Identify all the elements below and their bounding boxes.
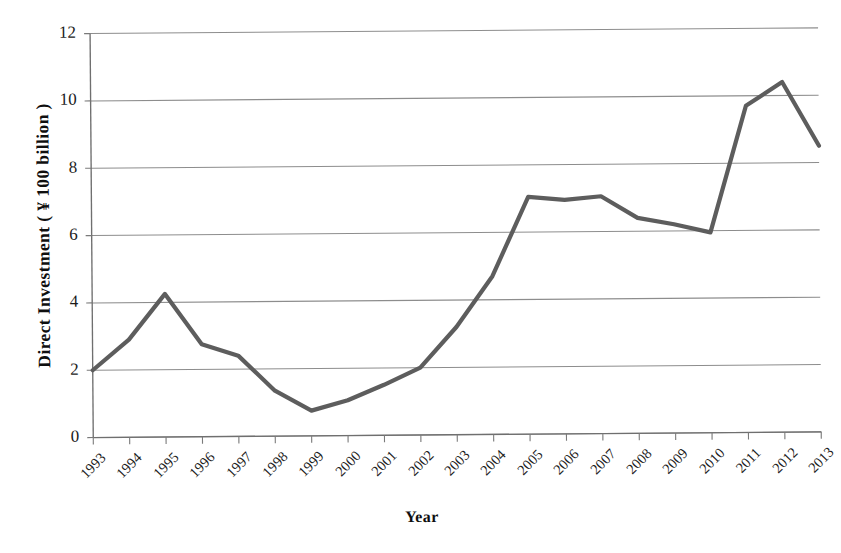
gridline [90, 28, 818, 34]
tickmark-group [84, 28, 821, 445]
gridline [93, 365, 821, 371]
gridline [92, 297, 820, 303]
gridline [91, 163, 819, 169]
data-series-line [91, 82, 822, 413]
line-chart-figure: Direct Investment ( ¥ 100 billion ) Year… [0, 0, 841, 553]
gridline [91, 95, 819, 101]
plot-area [0, 0, 841, 553]
